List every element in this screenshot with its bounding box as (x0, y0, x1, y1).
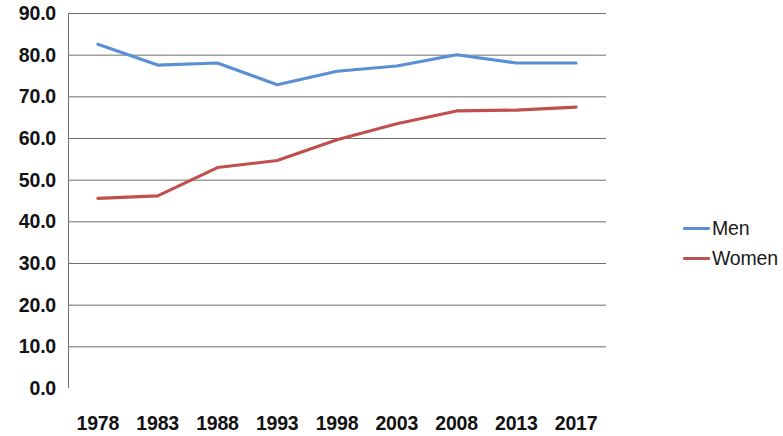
legend-swatch-icon (683, 257, 710, 260)
x-tick-label: 2008 (435, 412, 478, 435)
y-tick-label: 40.0 (19, 210, 56, 233)
x-axis: 197819831988199319982003200820132017 (0, 400, 783, 436)
legend-entry[interactable]: Women (683, 243, 783, 273)
legend-label: Men (712, 217, 749, 240)
axis-lines (68, 13, 606, 388)
y-axis: 0.010.020.030.040.050.060.070.080.090.0 (0, 0, 62, 436)
legend-swatch-icon (683, 227, 710, 230)
legend-entry[interactable]: Men (683, 213, 783, 243)
series-line-men (98, 44, 576, 84)
x-tick-label: 1988 (196, 412, 239, 435)
y-tick-label: 30.0 (19, 252, 56, 275)
y-tick-label: 10.0 (19, 335, 56, 358)
x-tick-label: 2017 (555, 412, 598, 435)
x-tick-label: 1983 (136, 412, 179, 435)
y-tick-label: 90.0 (19, 2, 56, 25)
y-tick-label: 80.0 (19, 43, 56, 66)
y-tick-label: 0.0 (29, 377, 56, 400)
data-series-group (98, 44, 576, 198)
x-tick-label: 1978 (77, 412, 120, 435)
legend-label: Women (712, 247, 778, 270)
series-line-women (98, 107, 576, 198)
x-tick-label: 1993 (256, 412, 299, 435)
line-chart: 0.010.020.030.040.050.060.070.080.090.0 … (0, 0, 783, 436)
plot-area (68, 13, 606, 388)
x-tick-label: 2003 (375, 412, 418, 435)
gridlines (68, 14, 606, 389)
plot-svg (68, 13, 606, 388)
chart-legend: MenWomen (683, 213, 783, 273)
y-tick-label: 70.0 (19, 85, 56, 108)
x-tick-label: 2013 (495, 412, 538, 435)
y-tick-label: 20.0 (19, 293, 56, 316)
y-tick-label: 60.0 (19, 127, 56, 150)
x-tick-label: 1998 (316, 412, 359, 435)
y-tick-label: 50.0 (19, 168, 56, 191)
